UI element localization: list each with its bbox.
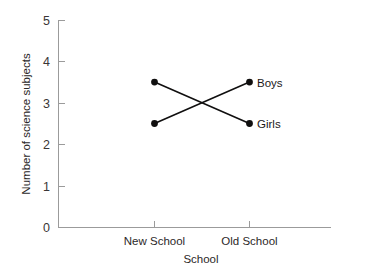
- y-tick-label-5: 5: [43, 14, 50, 28]
- chart-canvas: 5 4 3 2 1 0 Number of science subjects N…: [0, 0, 367, 279]
- series-label-boys: Boys: [257, 77, 283, 89]
- data-point-girls-new-school: [151, 79, 158, 86]
- y-tick-label-1: 1: [43, 180, 50, 194]
- x-axis-title: School: [183, 253, 218, 265]
- data-point-girls-old-school: [246, 120, 253, 127]
- y-tick-label-2: 2: [43, 138, 50, 152]
- x-tick-label-new-school: New School: [124, 235, 185, 247]
- y-axis-title: Number of science subjects: [20, 53, 32, 195]
- y-tick-label-0: 0: [43, 221, 50, 235]
- data-point-boys-old-school: [246, 79, 253, 86]
- y-tick-label-4: 4: [43, 55, 50, 69]
- line-chart: 5 4 3 2 1 0 Number of science subjects N…: [0, 0, 367, 279]
- data-point-boys-new-school: [151, 120, 158, 127]
- x-tick-label-old-school: Old School: [221, 235, 277, 247]
- series-label-girls: Girls: [257, 118, 281, 130]
- y-tick-label-3: 3: [43, 97, 50, 111]
